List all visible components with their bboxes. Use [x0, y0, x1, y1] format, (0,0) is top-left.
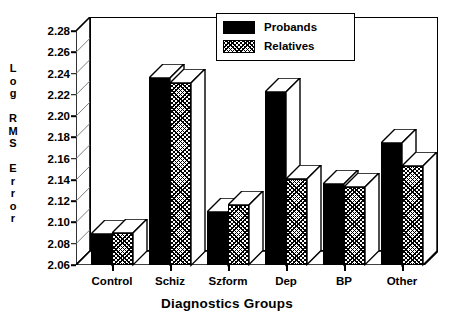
legend: Probands Relatives [216, 13, 355, 61]
bar-front-face [381, 143, 402, 265]
bar-schiz-probands [149, 78, 170, 265]
y-axis-tick-mark [71, 51, 76, 53]
legend-label-probands: Probands [264, 21, 317, 34]
x-axis-tick-label: Control [92, 275, 133, 287]
y-axis-tick-label: 2.28 [24, 25, 70, 37]
chart-figure: Log RMS Error 2.282.262.242.222.202.182.… [0, 0, 454, 321]
bar-control-probands [91, 234, 112, 265]
y-axis-tick-label: 2.26 [24, 46, 70, 58]
x-axis-tick-mark [286, 265, 288, 271]
bar-szform-relatives [228, 205, 249, 265]
y-axis-title-char: r [2, 187, 24, 200]
y-axis-tick-mark [71, 158, 76, 160]
y-axis-tick-mark [71, 200, 76, 202]
bar-other-relatives [402, 166, 423, 265]
bar-front-face [91, 234, 112, 265]
y-axis-tick-label: 2.22 [24, 89, 70, 101]
legend-swatch-relatives-icon [223, 40, 255, 53]
y-axis-title-char [2, 100, 24, 113]
bar-front-face [344, 187, 365, 265]
y-axis-tick-label: 2.16 [24, 153, 70, 165]
bar-front-face [207, 212, 228, 265]
y-axis-tick-label: 2.14 [24, 174, 70, 186]
y-axis-tick-label: 2.08 [24, 238, 70, 250]
y-axis-title-char: o [2, 75, 24, 88]
x-axis-tick-label: Szform [209, 275, 248, 287]
bar-bp-probands [323, 184, 344, 265]
x-axis-tick-mark [344, 265, 346, 271]
legend-label-relatives: Relatives [264, 40, 315, 53]
x-axis-tick-label: Other [387, 275, 418, 287]
bar-front-face [170, 83, 191, 265]
bar-dep-probands [265, 92, 286, 265]
y-axis-title-char: R [2, 112, 24, 125]
bar-front-face [149, 78, 170, 265]
x-axis-tick-label: Schiz [155, 275, 185, 287]
y-axis-title: Log RMS Error [2, 62, 24, 225]
x-axis-tick-mark [170, 265, 172, 271]
y-axis-tick-label: 2.12 [24, 195, 70, 207]
bar-other-probands [381, 143, 402, 265]
bar-front-face [228, 205, 249, 265]
x-axis-tick-mark [402, 265, 404, 271]
y-axis-tick-label: 2.18 [24, 131, 70, 143]
x-axis-tick-mark [112, 265, 114, 271]
y-axis-title-char: g [2, 87, 24, 100]
y-axis-tick-label: 2.20 [24, 110, 70, 122]
y-axis-tick-mark [71, 137, 76, 139]
legend-item-relatives: Relatives [223, 38, 348, 55]
y-axis-tick-label: 2.24 [24, 68, 70, 80]
x-axis-tick-label: BP [336, 275, 352, 287]
y-axis-tick-mark [71, 30, 76, 32]
bar-front-face [112, 233, 133, 265]
y-axis-tick-mark [71, 94, 76, 96]
y-axis-tick-label: 2.06 [24, 259, 70, 271]
y-axis-tick-label: 2.10 [24, 216, 70, 228]
y-axis-title-char: E [2, 162, 24, 175]
y-axis-tick-mark [71, 264, 76, 266]
y-axis-title-char: r [2, 212, 24, 225]
y-axis-title-char: M [2, 125, 24, 138]
y-axis-tick-mark [71, 243, 76, 245]
bar-dep-relatives [286, 179, 307, 265]
y-axis-tick-mark [71, 222, 76, 224]
y-axis-tick-mark [71, 73, 76, 75]
y-axis-title-char: o [2, 200, 24, 213]
y-axis-tick-labels: 2.282.262.242.222.202.182.162.142.122.10… [24, 0, 70, 321]
x-axis-tick-mark [228, 265, 230, 271]
y-axis-title-char: r [2, 175, 24, 188]
bar-control-relatives [112, 233, 133, 265]
y-axis-tick-mark [71, 115, 76, 117]
y-axis-title-char [2, 150, 24, 163]
y-axis-title-char: L [2, 62, 24, 75]
y-axis-tick-mark [71, 179, 76, 181]
x-axis-title: Diagnostics Groups [0, 296, 454, 311]
legend-swatch-probands-icon [223, 21, 255, 34]
y-axis-title-char: S [2, 137, 24, 150]
bar-szform-probands [207, 212, 228, 265]
x-axis-tick-label: Dep [275, 275, 297, 287]
bar-front-face [402, 166, 423, 265]
bar-front-face [323, 184, 344, 265]
bar-bp-relatives [344, 187, 365, 265]
bar-schiz-relatives [170, 83, 191, 265]
bar-front-face [286, 179, 307, 265]
legend-item-probands: Probands [223, 19, 348, 36]
bar-front-face [265, 92, 286, 265]
